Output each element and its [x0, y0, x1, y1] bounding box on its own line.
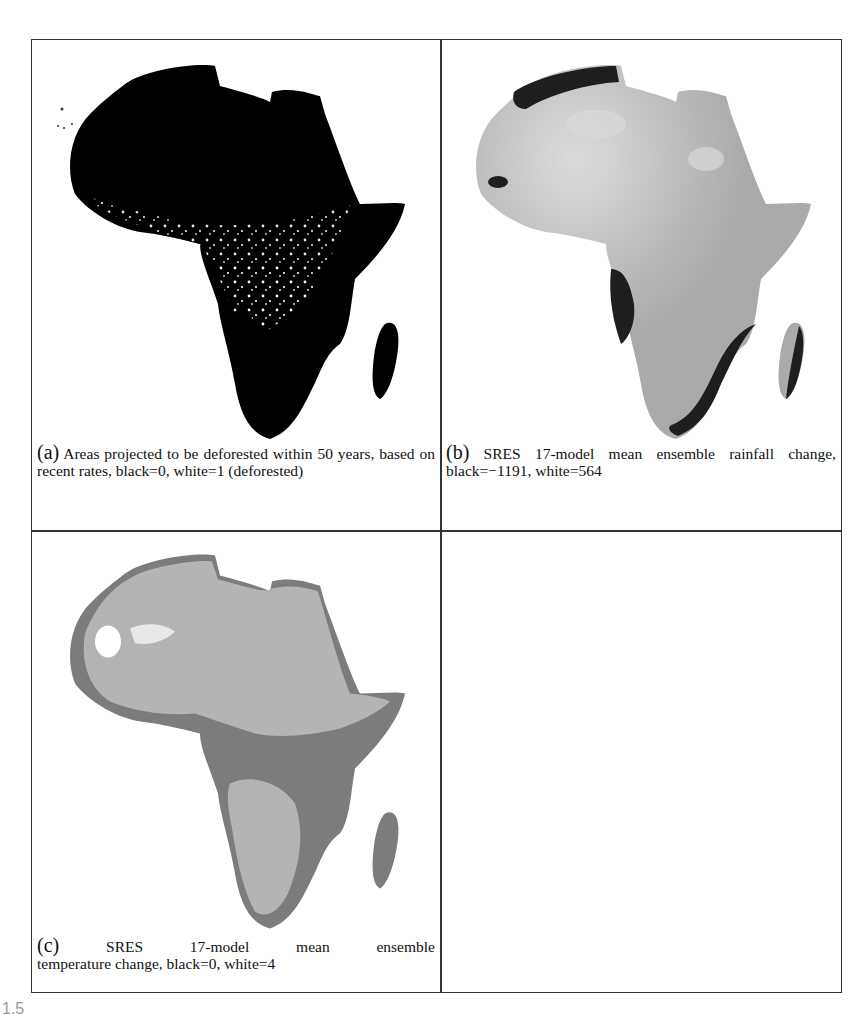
panel-c-caption-line1: SRES 17-model mean ensemble [106, 938, 435, 955]
panel-c-caption-line2: temperature change, black=0, white=4 [37, 955, 435, 972]
africa-rainfall-map [451, 54, 831, 444]
figure-grid: (a) Areas projected to be deforested wit… [31, 39, 842, 993]
panel-b-rainfall: (b) SRES 17-model mean ensemble rainfall… [441, 40, 842, 530]
panel-c-tag: (c) [37, 934, 59, 956]
africa-deforestation-map [50, 54, 420, 444]
panel-c-temperature: (c) SRES 17-model mean ensemble temperat… [32, 531, 440, 993]
figure-number-label: 1.5 [2, 1000, 24, 1015]
panel-a-tag: (a) [37, 441, 59, 463]
panel-a-deforestation: (a) Areas projected to be deforested wit… [32, 40, 440, 530]
panel-a-caption: (a) Areas projected to be deforested wit… [37, 444, 435, 479]
panel-b-caption-text: SRES 17-model mean ensemble rainfall cha… [446, 445, 836, 479]
panel-d-empty [441, 531, 842, 993]
panel-b-tag: (b) [446, 441, 469, 463]
africa-temperature-map [50, 541, 420, 936]
panel-c-caption: (c) SRES 17-model mean ensemble temperat… [37, 937, 435, 972]
panel-a-caption-text: Areas projected to be deforested within … [37, 445, 435, 479]
panel-b-caption: (b) SRES 17-model mean ensemble rainfall… [446, 444, 836, 479]
